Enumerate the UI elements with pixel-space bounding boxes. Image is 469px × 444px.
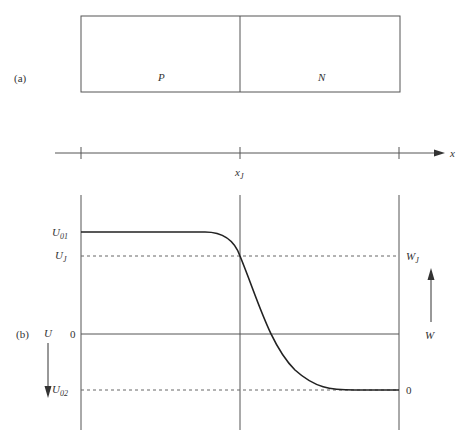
tick-uj: UJ	[55, 249, 67, 264]
junction-x-label: xJ	[234, 166, 244, 181]
u-axis-label: U	[44, 327, 53, 339]
x-axis	[55, 147, 445, 159]
tick-wj: WJ	[406, 250, 419, 265]
n-region-label: N	[317, 71, 326, 83]
tick-u01: U01	[52, 226, 68, 241]
u-arrow-down-icon	[45, 386, 52, 398]
w-axis-label: W	[425, 329, 435, 341]
junction-box	[81, 16, 400, 92]
x-axis-label: x	[449, 147, 455, 159]
panel-b-label: (b)	[16, 328, 29, 341]
tick-zero-right: 0	[406, 384, 412, 396]
tick-zero-left: 0	[70, 328, 76, 340]
w-arrow-up-icon	[428, 268, 435, 280]
tick-u02: U02	[52, 383, 68, 398]
panel-a-label: (a)	[14, 72, 27, 85]
x-axis-arrow-icon	[434, 150, 445, 157]
energy-band-plot	[81, 195, 399, 430]
pn-junction-diagram: (a) P N x xJ (b) U01 UJ 0 U02 U WJ 0 W	[0, 0, 469, 444]
p-region-label: P	[157, 71, 165, 83]
